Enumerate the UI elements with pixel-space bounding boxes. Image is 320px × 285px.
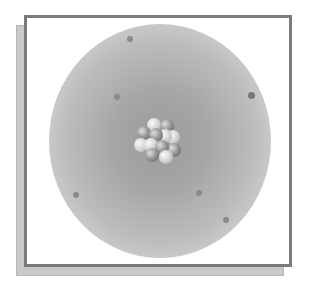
nucleus: [133, 118, 185, 168]
electron: [196, 190, 202, 196]
electron: [223, 217, 229, 223]
electron: [73, 192, 79, 198]
nucleon: [159, 150, 173, 164]
electron: [248, 92, 255, 99]
electron: [127, 36, 133, 42]
electron: [114, 94, 120, 100]
nucleon: [145, 148, 159, 162]
